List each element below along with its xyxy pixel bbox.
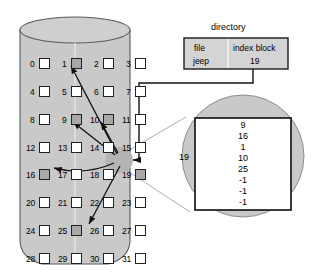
block-number-label: 0 [30, 60, 35, 69]
magnifier-bubble [126, 95, 304, 217]
index-block-entry: 10 [223, 153, 263, 164]
disk-block-free[interactable] [103, 58, 114, 69]
block-number-label: 19 [122, 171, 131, 180]
block-number-label: 25 [58, 227, 67, 236]
disk-block-free[interactable] [135, 197, 146, 208]
disk-block-free[interactable] [135, 114, 146, 125]
disk-block-free[interactable] [39, 58, 50, 69]
block-number-label: 30 [90, 255, 99, 264]
directory-title: directory [211, 22, 246, 32]
index-block-entry: 1 [223, 142, 263, 153]
block-number-label: 26 [90, 227, 99, 236]
disk-block-free[interactable] [71, 86, 82, 97]
disk-block-free[interactable] [135, 225, 146, 236]
block-number-label: 13 [58, 144, 67, 153]
disk-block-free[interactable] [71, 253, 82, 264]
disk-block-free[interactable] [71, 169, 82, 180]
disk-block-free[interactable] [135, 58, 146, 69]
disk-block-free[interactable] [135, 86, 146, 97]
block-number-label: 4 [30, 88, 35, 97]
block-number-label: 2 [94, 60, 99, 69]
block-number-label: 29 [58, 255, 67, 264]
disk-block-used[interactable] [71, 58, 82, 69]
block-number-label: 18 [90, 171, 99, 180]
disk-block-free[interactable] [71, 142, 82, 153]
block-number-label: 27 [122, 227, 131, 236]
disk-block-free[interactable] [103, 225, 114, 236]
disk-block-free[interactable] [39, 114, 50, 125]
figure-root: 0123456789101112131415161718192021222324… [0, 0, 328, 280]
index-block-entry: 9 [223, 120, 263, 131]
block-number-label: 28 [26, 255, 35, 264]
block-number-label: 8 [30, 116, 35, 125]
index-block-entry-list: 91611025-1-1-1 [223, 120, 263, 208]
directory-header-file: file [194, 43, 205, 53]
block-number-label: 7 [126, 88, 131, 97]
block-number-label: 6 [94, 88, 99, 97]
index-block-entry: -1 [223, 197, 263, 208]
disk-block-used[interactable] [103, 114, 114, 125]
block-number-label: 15 [122, 144, 131, 153]
block-number-label: 3 [126, 60, 131, 69]
block-number-label: 14 [90, 144, 99, 153]
block-number-label: 21 [58, 199, 67, 208]
disk-block-free[interactable] [135, 142, 146, 153]
block-number-label: 1 [62, 60, 67, 69]
disk-block-used[interactable] [71, 114, 82, 125]
block-number-label: 16 [26, 171, 35, 180]
disk-block-free[interactable] [39, 225, 50, 236]
index-block-number-label: 19 [179, 152, 189, 162]
diagram-canvas [0, 0, 328, 280]
block-number-label: 22 [90, 199, 99, 208]
disk-block-free[interactable] [103, 197, 114, 208]
block-number-label: 31 [122, 255, 131, 264]
block-number-label: 11 [122, 116, 130, 125]
disk-block-used[interactable] [71, 225, 82, 236]
disk-block-used[interactable] [135, 169, 146, 180]
index-block-entry: -1 [223, 186, 263, 197]
disk-block-free[interactable] [39, 142, 50, 153]
disk-block-free[interactable] [39, 253, 50, 264]
disk-block-free[interactable] [39, 197, 50, 208]
block-number-label: 23 [122, 199, 131, 208]
block-number-label: 9 [62, 116, 67, 125]
directory-cell-index-block: 19 [250, 56, 259, 66]
block-number-label: 17 [58, 171, 67, 180]
disk-block-free[interactable] [135, 253, 146, 264]
disk-block-free[interactable] [39, 86, 50, 97]
block-number-label: 20 [26, 199, 35, 208]
block-number-label: 5 [62, 88, 67, 97]
index-block-entry: 25 [223, 164, 263, 175]
disk-block-used[interactable] [39, 169, 50, 180]
disk-block-free[interactable] [103, 169, 114, 180]
index-block-entry: -1 [223, 175, 263, 186]
disk-block-free[interactable] [103, 86, 114, 97]
directory-cell-file-name: jeep [193, 56, 209, 66]
index-block-entry: 16 [223, 131, 263, 142]
directory-header-index-block: index block [233, 43, 276, 53]
disk-block-free[interactable] [103, 253, 114, 264]
block-number-label: 12 [26, 144, 35, 153]
block-number-label: 10 [90, 116, 99, 125]
disk-block-free[interactable] [103, 142, 114, 153]
block-number-label: 24 [26, 227, 35, 236]
disk-block-free[interactable] [71, 197, 82, 208]
